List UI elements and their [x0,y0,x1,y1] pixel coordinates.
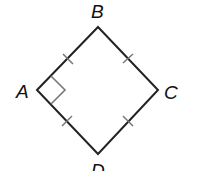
vertex-label-c: C [164,82,178,103]
vertex-label-a: A [15,81,29,102]
vertex-label-d: D [91,160,105,171]
right-angle-marker [51,76,65,104]
square-diagram: B A C D [0,0,200,171]
quadrilateral-abcd [37,27,158,154]
vertex-label-b: B [91,1,104,22]
